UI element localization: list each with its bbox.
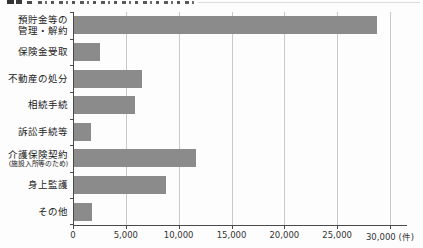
x-tick bbox=[73, 226, 74, 229]
bar bbox=[73, 203, 92, 221]
chart-row: 預貯金等の管理・解約 bbox=[0, 12, 405, 39]
x-tick bbox=[179, 226, 180, 229]
y-axis-line bbox=[73, 12, 74, 225]
x-tick-label: 10,000 bbox=[164, 230, 194, 240]
bar-track bbox=[73, 119, 405, 146]
x-tick bbox=[337, 226, 338, 229]
bar bbox=[73, 176, 166, 194]
x-tick bbox=[284, 226, 285, 229]
y-tick bbox=[70, 198, 73, 199]
figure-title-marker bbox=[7, 0, 14, 4]
x-tick-label: 20,000 bbox=[269, 230, 299, 240]
bar-track bbox=[73, 65, 405, 92]
bar-track bbox=[73, 172, 405, 199]
figure-title-marker bbox=[27, 1, 32, 4]
chart-row: 不動産の処分 bbox=[0, 65, 405, 92]
chart-row: 相続手続 bbox=[0, 92, 405, 119]
category-label: 預貯金等の管理・解約 bbox=[0, 14, 73, 37]
y-axis-ticks bbox=[70, 12, 73, 225]
category-label: 保険金受取 bbox=[0, 46, 73, 57]
bar-track bbox=[73, 145, 405, 172]
x-tick-label: 5,000 bbox=[114, 230, 138, 240]
bar-track bbox=[73, 198, 405, 225]
bar-track bbox=[73, 92, 405, 119]
category-label: 身上監護 bbox=[0, 179, 73, 190]
figure-screenshot: 預貯金等の管理・解約保険金受取不動産の処分相続手続訴訟手続等介護保険契約(施設入… bbox=[0, 0, 423, 248]
x-axis-tick-labels: 05,00010,00015,00020,00025,00030,000 (件) bbox=[73, 230, 422, 243]
category-label: 相続手続 bbox=[0, 99, 73, 110]
y-tick bbox=[70, 224, 73, 225]
y-tick bbox=[70, 119, 73, 120]
category-label: その他 bbox=[0, 206, 73, 217]
y-tick bbox=[70, 145, 73, 146]
bar bbox=[73, 96, 135, 114]
chart-row: 訴訟手続等 bbox=[0, 119, 405, 146]
figure-title-marker bbox=[16, 0, 22, 4]
category-label: 不動産の処分 bbox=[0, 73, 73, 84]
chart-rows: 預貯金等の管理・解約保険金受取不動産の処分相続手続訴訟手続等介護保険契約(施設入… bbox=[0, 12, 405, 225]
x-tick-label: 15,000 bbox=[217, 230, 247, 240]
chart-row: 保険金受取 bbox=[0, 39, 405, 66]
bar-track bbox=[73, 39, 405, 66]
category-label: 介護保険契約(施設入所等のため) bbox=[0, 149, 73, 169]
x-tick bbox=[126, 226, 127, 229]
bar bbox=[73, 43, 100, 61]
y-tick bbox=[70, 172, 73, 173]
x-tick bbox=[232, 226, 233, 229]
y-tick bbox=[70, 12, 73, 13]
x-tick-label: 0 bbox=[70, 230, 75, 240]
chart-row: 身上監護 bbox=[0, 172, 405, 199]
figure-title-rule bbox=[198, 2, 420, 3]
x-tick-label: 30,000 (件) bbox=[366, 230, 414, 242]
bar bbox=[73, 16, 377, 34]
y-tick bbox=[70, 92, 73, 93]
category-label: 訴訟手続等 bbox=[0, 126, 73, 137]
cropped-figure-title bbox=[0, 0, 423, 6]
y-tick bbox=[70, 39, 73, 40]
x-tick bbox=[390, 226, 391, 229]
y-tick bbox=[70, 65, 73, 66]
chart-row: その他 bbox=[0, 198, 405, 225]
chart-row: 介護保険契約(施設入所等のため) bbox=[0, 145, 405, 172]
figure-title-text-fragment bbox=[38, 1, 198, 4]
bar bbox=[73, 123, 91, 141]
bar bbox=[73, 70, 142, 88]
bar-track bbox=[73, 12, 405, 39]
x-tick-label: 25,000 bbox=[322, 230, 352, 240]
bar bbox=[73, 149, 196, 167]
